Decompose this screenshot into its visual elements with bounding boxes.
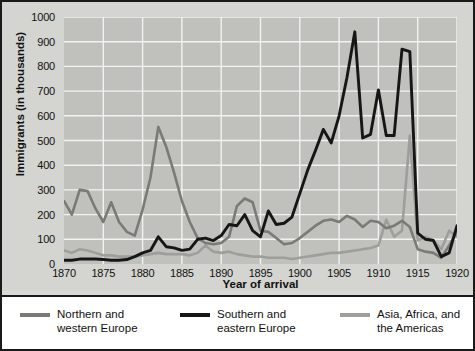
legend-item-asia-africa-americas: Asia, Africa, and the Americas — [340, 307, 473, 335]
legend-swatch-icon — [180, 313, 210, 317]
chart-figure: 1000 900 800 700 600 500 400 300 200 100… — [0, 0, 475, 351]
chart-legend: Northern and western Europe Southern and… — [2, 295, 473, 349]
legend-label: Asia, Africa, and the Americas — [377, 307, 473, 335]
legend-item-southern-eastern-europe: Southern and eastern Europe — [180, 307, 296, 335]
chart-panel: 1000 900 800 700 600 500 400 300 200 100… — [2, 2, 473, 291]
legend-label: Northern and western Europe — [57, 307, 138, 335]
y-axis-tick: 200 — [7, 210, 55, 221]
y-axis-tick: 300 — [7, 185, 55, 196]
legend-item-northern-western-europe: Northern and western Europe — [20, 307, 138, 335]
legend-swatch-icon — [340, 313, 370, 317]
legend-swatch-icon — [20, 313, 50, 317]
y-axis-tick: 100 — [7, 234, 55, 245]
plot-area — [64, 17, 457, 264]
plot-svg — [64, 17, 457, 264]
x-axis-label: Year of arrival — [64, 278, 457, 290]
legend-label: Southern and eastern Europe — [217, 307, 296, 335]
y-axis-label: Immigrants (in thousands) — [14, 24, 26, 184]
y-axis-tick: 1000 — [7, 12, 55, 23]
